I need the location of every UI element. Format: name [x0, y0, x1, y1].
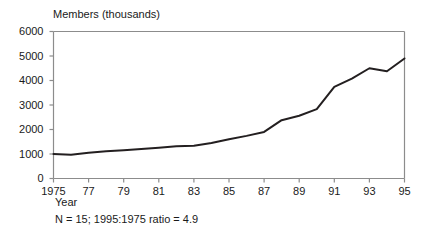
x-tick-label: 89 — [279, 186, 319, 197]
x-tick-label: 85 — [209, 186, 249, 197]
y-tick-label: 0 — [0, 173, 44, 184]
y-tick-label: 6000 — [0, 26, 44, 37]
x-tick-label: 81 — [139, 186, 179, 197]
figure: Members (thousands) 60005000400030002000… — [0, 0, 425, 242]
y-tick-label: 1000 — [0, 149, 44, 160]
x-tick-marks — [54, 179, 405, 183]
x-axis-label: Year — [55, 196, 77, 209]
y-tick-label: 4000 — [0, 75, 44, 86]
chart-footnote: N = 15; 1995:1975 ratio = 4.9 — [55, 213, 198, 226]
x-tick-label: 91 — [314, 186, 354, 197]
x-tick-label: 79 — [104, 186, 144, 197]
y-tick-label: 5000 — [0, 51, 44, 62]
y-tick-label: 2000 — [0, 124, 44, 135]
x-tick-label: 95 — [385, 186, 425, 197]
x-tick-label: 83 — [174, 186, 214, 197]
x-tick-label: 87 — [244, 186, 284, 197]
x-tick-label: 77 — [69, 186, 109, 197]
x-tick-label: 93 — [349, 186, 389, 197]
x-tick-label: 1975 — [34, 186, 74, 197]
data-series-line — [54, 58, 405, 154]
axes-group — [54, 32, 405, 179]
y-tick-label: 3000 — [0, 100, 44, 111]
